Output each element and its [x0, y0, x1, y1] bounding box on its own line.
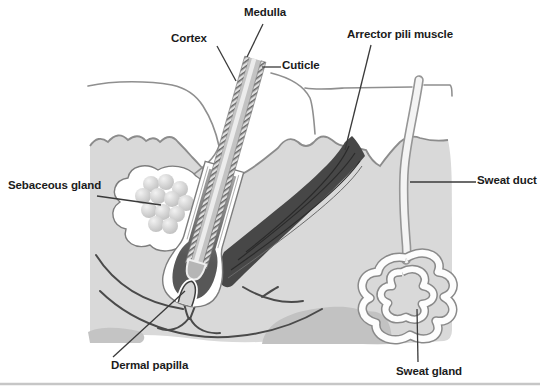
label-arrector-pili: Arrector pili muscle: [347, 28, 453, 41]
label-sweat-gland: Sweat gland: [396, 365, 462, 378]
skin-anatomy-illustration: [0, 0, 540, 387]
label-sweat-duct: Sweat duct: [477, 174, 537, 187]
label-cortex: Cortex: [171, 32, 207, 45]
cortex-pointer: [217, 46, 236, 81]
medulla-pointer: [247, 24, 263, 57]
label-cuticle: Cuticle: [282, 59, 320, 72]
arrector-pointer: [345, 45, 371, 150]
label-medulla: Medulla: [244, 6, 286, 19]
skin-anatomy-figure: Medulla Cortex Cuticle Arrector pili mus…: [0, 0, 540, 387]
label-dermal-papilla: Dermal papilla: [111, 359, 188, 372]
label-sebaceous-gland: Sebaceous gland: [8, 179, 101, 192]
